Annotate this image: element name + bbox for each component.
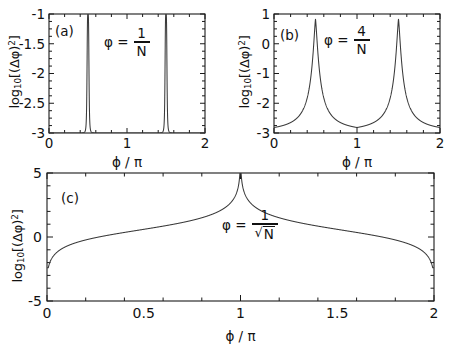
panel-c-annotation-numerator: 1 [257,208,272,223]
y-tick-label: -3 [257,125,270,141]
panel-a-annotation-numerator: 1 [134,26,149,41]
y-tick-label: -2 [257,95,270,111]
y-tick-label: -2 [32,65,45,81]
panel-letter-label: (a) [55,23,74,39]
x-tick-label: 2 [430,305,439,321]
panel-b: log10[(Δφ)2] 01210-1-2-3(b)ϕ / π φ = 4 N [228,0,450,160]
y-tick-label: 0 [33,229,42,245]
panel-b-annotation-numerator: 4 [354,24,369,39]
sqrt-icon: √ [255,226,263,239]
x-tick-label: 1 [123,135,132,151]
y-tick-label: -1 [32,6,45,22]
y-tick-label: 1 [261,6,270,22]
panel-a-annotation-denominator: N [134,43,150,58]
y-tick-label: -3 [32,125,45,141]
panel-c-annotation-denominator: √ N [252,225,278,243]
y-tick-label: 5 [33,165,42,181]
panel-b-annotation: φ = 4 N [324,24,370,56]
panel-c-annotation-lhs: φ = [222,217,247,233]
x-tick-label: 1 [236,305,245,321]
panel-c-annotation-radicand: N [263,226,275,243]
panel-a-y-axis-label: log10[(Δφ)2] [7,17,23,127]
x-tick-label: 2 [201,135,210,151]
panel-a-annotation: φ = 1 N [104,26,150,58]
panel-a-plot: 012-1-1.5-2-2.5-3(a)ϕ / π [0,0,215,160]
panel-letter-label: (c) [61,190,79,206]
x-tick-label: 0.5 [133,305,155,321]
y-tick-label: 0 [261,36,270,52]
panel-b-annotation-fraction: 4 N [354,24,370,56]
panel-a: log10[(Δφ)2] 012-1-1.5-2-2.5-3(a)ϕ / π φ… [0,0,215,160]
panel-b-annotation-denominator: N [354,41,370,56]
x-axis-title: ϕ / π [225,328,255,344]
x-tick-label: 1 [353,135,362,151]
panel-b-y-axis-label: log10[(Δφ)2] [237,17,253,127]
panel-a-annotation-lhs: φ = [104,34,129,50]
x-tick-label: 2 [436,135,445,151]
figure-panel-group: log10[(Δφ)2] 012-1-1.5-2-2.5-3(a)ϕ / π φ… [0,0,450,351]
x-tick-label: 0 [45,135,54,151]
x-tick-label: 0 [270,135,279,151]
x-tick-label: 1.5 [326,305,348,321]
panel-c-y-axis-label: log10[(Δφ)2] [10,191,26,301]
panel-a-annotation-fraction: 1 N [134,26,150,58]
x-tick-label: 0 [43,305,52,321]
y-tick-label: -5 [28,293,42,309]
panel-letter-label: (b) [280,27,299,43]
y-tick-label: -1 [257,65,270,81]
panel-c-annotation-fraction: 1 √ N [252,208,278,242]
panel-c: log10[(Δφ)2] 00.511.5250-5(c)ϕ / π φ = 1… [0,160,450,351]
panel-b-annotation-lhs: φ = [324,32,349,48]
panel-c-annotation: φ = 1 √ N [222,208,278,242]
panel-c-plot: 00.511.5250-5(c)ϕ / π [0,160,450,351]
